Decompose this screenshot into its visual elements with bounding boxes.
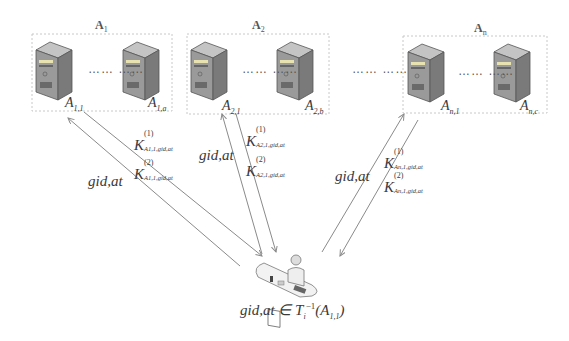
server-label-anc: An,c <box>520 99 538 116</box>
condition-close: ) <box>339 302 344 318</box>
server-icon-an1 <box>408 44 444 102</box>
group-label-n-sub: n <box>483 28 487 37</box>
group-label-n-name: A <box>474 21 483 35</box>
key1-label-2: K(1)A2,1,gid,at <box>246 134 256 149</box>
key2-label-2-base: K <box>246 163 256 179</box>
key1-label-1-sup: (1) <box>144 130 153 138</box>
request-label-2: gid,at <box>199 148 234 163</box>
server-label-a1a: AA1,a <box>148 96 167 113</box>
condition-sup: −1 <box>306 301 316 311</box>
group-label-1: A1 <box>95 19 108 34</box>
group-label-2-sub: 2 <box>261 25 265 34</box>
server-label-a11: A1,1 <box>65 96 84 113</box>
group-label-n: An <box>474 22 487 37</box>
server-label-a11-sub: 1,1 <box>74 104 84 113</box>
server-label-an1-sub: n,1 <box>450 107 460 116</box>
user-condition-label: gid,at ∈ Ti−1(A1,1) <box>240 302 344 321</box>
request-label-1: gid,at <box>88 174 123 189</box>
server-label-a21-name: A <box>222 98 231 113</box>
key2-label-n-sub: An,1,gid,at <box>394 188 423 195</box>
condition-arg-sub: 1,1 <box>329 312 339 321</box>
ellipsis-group-n: …… …… <box>458 64 514 78</box>
server-label-a1a-sub: 1,a <box>157 104 167 113</box>
server-icon-a11 <box>36 42 72 100</box>
key2-label-2-sub: A2,1,gid,at <box>256 172 285 179</box>
key1-label-n-base: K <box>384 155 394 171</box>
key2-label-2-sup: (2) <box>256 156 265 164</box>
server-label-a11-name: A <box>65 95 74 110</box>
group-label-2-name: A <box>252 18 261 32</box>
server-label-a2b: A2,b <box>305 99 324 116</box>
arrow-request-1 <box>68 118 240 266</box>
key2-label-2: K(2)A2,1,gid,at <box>246 164 256 179</box>
key2-label-n: K(2)An,1,gid,at <box>384 180 394 195</box>
server-label-a2b-sub: 2,b <box>314 107 324 116</box>
condition-sub: i <box>303 312 305 321</box>
key2-label-1-base: K <box>134 166 144 182</box>
key1-label-2-sup: (1) <box>256 126 265 134</box>
ellipsis-group-2: …… …… <box>242 62 298 76</box>
key2-label-1-sub: A1,1,gid,at <box>144 175 173 182</box>
ellipsis-between-groups: …… …… <box>352 62 408 76</box>
condition-prefix: gid,at ∈ T <box>240 302 303 318</box>
key2-label-n-base: K <box>384 179 394 195</box>
key1-label-1-sub: A1,1,gid,at <box>144 146 173 153</box>
key1-label-1-base: K <box>134 137 144 153</box>
key1-label-2-sub: A2,1,gid,at <box>256 142 285 149</box>
key1-label-1: K(1)A1,1,gid,at <box>134 138 144 153</box>
server-label-anc-sub: n,c <box>529 107 539 116</box>
key1-label-n-sup: (1) <box>394 148 403 156</box>
key2-label-1: K(2)A1,1,gid,at <box>134 167 144 182</box>
server-label-a1a-name: A <box>148 95 157 110</box>
server-label-a2b-name: A <box>305 98 314 113</box>
key2-label-n-sup: (2) <box>394 172 403 180</box>
server-label-an1: An,1 <box>441 99 460 116</box>
server-label-a21: A2,1 <box>222 99 241 116</box>
key1-label-n-sub: An,1,gid,at <box>394 164 423 171</box>
server-label-anc-name: A <box>520 98 529 113</box>
group-label-1-name: A <box>95 18 104 32</box>
condition-arg: (A <box>315 302 329 318</box>
key1-label-n: K(1)An,1,gid,at <box>384 156 394 171</box>
server-icon-a21 <box>191 42 227 100</box>
server-label-an1-name: A <box>441 98 450 113</box>
server-label-a21-sub: 2,1 <box>231 107 241 116</box>
request-label-n: gid,at <box>335 169 370 184</box>
key2-label-1-sup: (2) <box>144 159 153 167</box>
group-label-1-sub: 1 <box>104 25 108 34</box>
ellipsis-group-1: …… …… <box>88 62 144 76</box>
group-label-2: A2 <box>252 19 265 34</box>
key1-label-2-base: K <box>246 133 256 149</box>
